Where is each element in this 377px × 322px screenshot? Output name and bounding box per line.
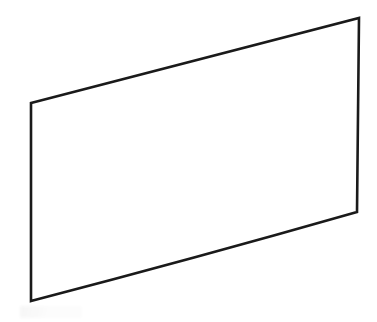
canvas-background — [0, 0, 377, 322]
drawing-canvas — [0, 0, 377, 322]
quadrilateral-figure — [0, 0, 377, 322]
